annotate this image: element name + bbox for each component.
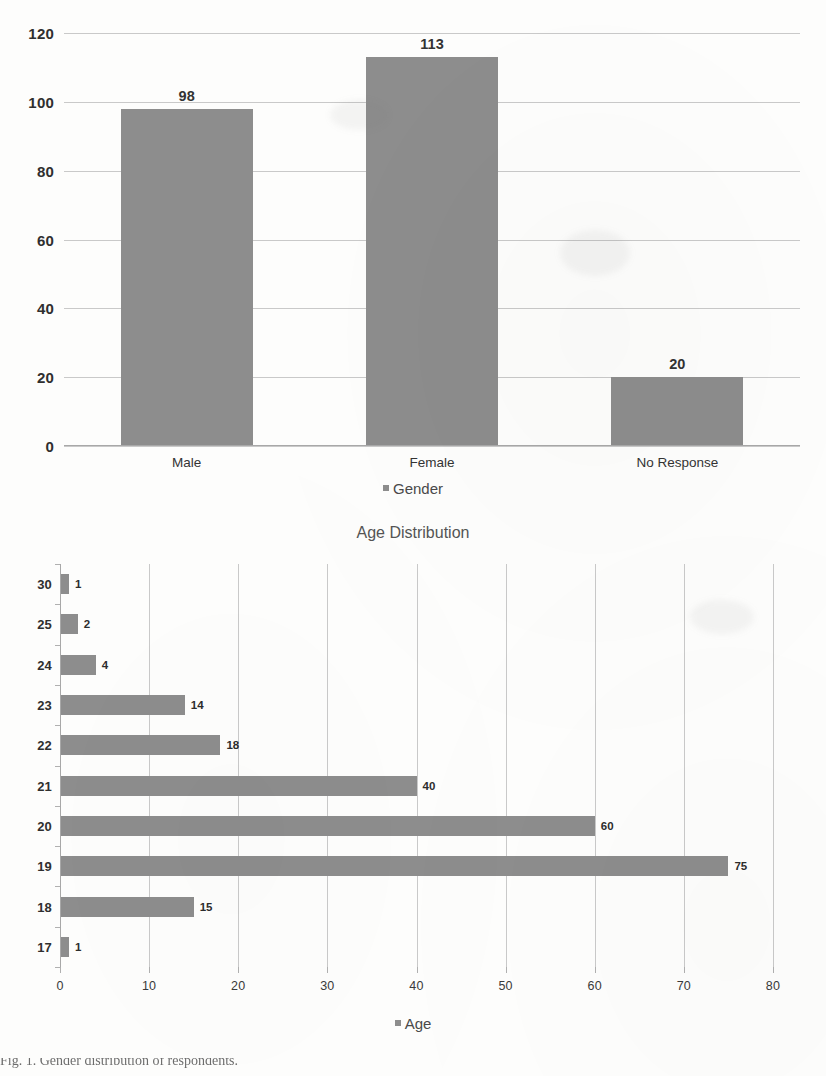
y-axis-tick-label: 20 — [37, 818, 52, 833]
x-axis-tickmark — [417, 967, 418, 973]
bar-value-label: 4 — [102, 659, 108, 671]
x-axis-tickmark — [595, 967, 596, 973]
gridline — [773, 564, 774, 967]
bar-value-label: 113 — [420, 36, 443, 52]
x-axis-tickmark — [773, 967, 774, 973]
bar — [60, 695, 185, 715]
age-y-axis-line — [60, 564, 61, 967]
y-axis-tick-label: 19 — [37, 859, 52, 874]
age-distribution-chart: Age Distribution 01020304050607080 30252… — [0, 520, 826, 1076]
x-axis-tickmark — [60, 967, 61, 973]
bar — [60, 655, 96, 675]
legend-swatch-icon — [395, 1020, 401, 1026]
bar — [60, 816, 595, 836]
x-axis-tickmark — [327, 967, 328, 973]
x-axis-tickmark — [149, 967, 150, 973]
x-axis-tick-label: 80 — [766, 979, 780, 993]
category-label: Male — [172, 455, 201, 470]
bar-value-label: 15 — [200, 901, 213, 913]
gridline — [506, 564, 507, 967]
y-axis-tick-label: 23 — [37, 698, 52, 713]
legend-swatch-icon — [383, 485, 389, 491]
bar-value-label: 40 — [423, 780, 436, 792]
gridline — [684, 564, 685, 967]
bar — [60, 897, 194, 917]
figure-caption: Fig. 1. Gender distribution of responden… — [0, 1058, 826, 1076]
x-axis-tickmark — [506, 967, 507, 973]
x-axis-tickmark — [238, 967, 239, 973]
bar — [366, 57, 498, 446]
x-axis-tick-label: 50 — [498, 979, 512, 993]
y-axis-tick-label: 60 — [37, 231, 54, 248]
bar — [60, 614, 78, 634]
age-legend-label: Age — [405, 1015, 432, 1032]
gridline — [64, 446, 800, 447]
x-axis-tick-label: 30 — [320, 979, 334, 993]
gender-x-axis-line — [64, 445, 800, 446]
y-axis-tick-label: 100 — [28, 93, 54, 110]
bar — [611, 377, 743, 446]
y-axis-tick-label: 24 — [37, 657, 52, 672]
y-axis-tick-label: 20 — [37, 369, 54, 386]
document-page: 120100806040200 9811320 MaleFemaleNo Res… — [0, 0, 826, 1076]
y-axis-tick-label: 25 — [37, 617, 52, 632]
gender-legend: Gender — [0, 480, 826, 497]
bar-value-label: 1 — [75, 941, 81, 953]
category-label: No Response — [636, 455, 718, 470]
bar-value-label: 75 — [734, 860, 747, 872]
age-chart-title: Age Distribution — [0, 524, 826, 542]
age-plot-area: 01020304050607080 30252423222120191817 1… — [60, 564, 773, 967]
x-axis-tick-label: 40 — [409, 979, 423, 993]
y-axis-tickmark — [55, 967, 60, 968]
y-axis-tick-label: 30 — [37, 577, 52, 592]
figure-caption-text: Fig. 1. Gender distribution of responden… — [0, 1058, 238, 1069]
x-axis-tick-label: 0 — [56, 979, 63, 993]
y-axis-tick-label: 40 — [37, 300, 54, 317]
bar — [60, 776, 417, 796]
bar-value-label: 60 — [601, 820, 614, 832]
bar-value-label: 98 — [179, 88, 195, 104]
x-axis-tickmark — [684, 967, 685, 973]
y-axis-tick-label: 80 — [37, 162, 54, 179]
bar-value-label: 20 — [669, 356, 685, 372]
gender-plot-area: 120100806040200 9811320 — [64, 33, 800, 446]
bar — [60, 856, 728, 876]
x-axis-tick-label: 20 — [231, 979, 245, 993]
bar — [60, 574, 69, 594]
x-axis-tick-label: 60 — [588, 979, 602, 993]
y-axis-tick-label: 120 — [28, 25, 54, 42]
bar-value-label: 1 — [75, 578, 81, 590]
y-axis-tick-label: 22 — [37, 738, 52, 753]
bar — [60, 937, 69, 957]
x-axis-tick-label: 70 — [677, 979, 691, 993]
y-axis-tick-label: 17 — [37, 939, 52, 954]
gridline — [64, 33, 800, 34]
bar — [60, 735, 220, 755]
bar-value-label: 14 — [191, 699, 204, 711]
y-axis-tick-label: 21 — [37, 778, 52, 793]
gridline — [595, 564, 596, 967]
age-legend: Age — [0, 1015, 826, 1032]
bar-value-label: 2 — [84, 618, 90, 630]
gridline — [238, 564, 239, 967]
x-axis-tick-label: 10 — [142, 979, 156, 993]
category-label: Female — [409, 455, 454, 470]
gender-bar-chart: 120100806040200 9811320 MaleFemaleNo Res… — [0, 0, 826, 510]
bar-value-label: 18 — [226, 739, 239, 751]
gridline — [327, 564, 328, 967]
gender-legend-label: Gender — [393, 480, 443, 497]
y-axis-tick-label: 18 — [37, 899, 52, 914]
y-axis-tick-label: 0 — [45, 438, 54, 455]
gridline — [417, 564, 418, 967]
bar — [121, 109, 253, 446]
